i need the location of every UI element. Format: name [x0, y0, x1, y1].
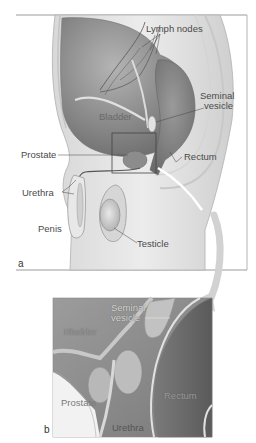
panel-b-letter: b	[44, 424, 50, 435]
panel-b-illustration	[0, 0, 256, 443]
label-b-rectum: Rectum	[164, 391, 197, 401]
label-b-urethra: Urethra	[112, 423, 144, 433]
label-b-seminal-vesicle-line2: vesicle	[111, 313, 140, 323]
label-b-bladder: Bladder	[64, 327, 97, 337]
label-b-prostate: Prostate	[61, 398, 96, 408]
